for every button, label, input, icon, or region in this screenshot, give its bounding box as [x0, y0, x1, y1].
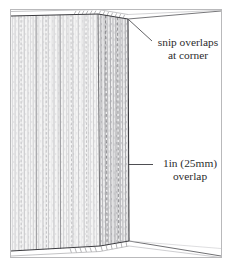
annotation-overlap-line-1: 1in (25mm): [147, 157, 233, 170]
figure-container: snip overlaps at corner 1in (25mm) overl…: [0, 0, 238, 267]
annotation-snip-line-1: snip overlaps: [142, 36, 234, 49]
annotation-snip-line-2: at corner: [142, 49, 234, 62]
fabric-panel-main: [11, 14, 100, 251]
annotation-snip-overlaps: snip overlaps at corner: [142, 36, 234, 61]
bottom-return-line: [129, 241, 221, 258]
annotation-overlap-measurement: 1in (25mm) overlap: [147, 157, 233, 182]
fabric-panel-overlap: [98, 14, 129, 246]
top-return-line: [128, 10, 221, 19]
annotation-overlap-line-2: overlap: [147, 170, 233, 183]
